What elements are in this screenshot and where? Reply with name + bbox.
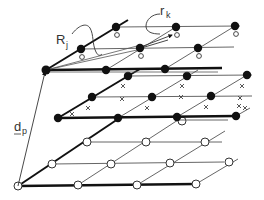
label-Rj: R j	[56, 32, 68, 50]
svg-text:r: r	[160, 3, 165, 18]
bottom-layer	[14, 117, 238, 190]
bottom-diag-3	[137, 131, 225, 185]
rk-leader-curve	[146, 14, 160, 34]
svg-text:j: j	[65, 40, 68, 50]
fan-line-1	[46, 50, 137, 70]
label-dp: d p	[14, 119, 27, 136]
svg-text:d: d	[14, 119, 21, 134]
middle-x-marks	[70, 84, 247, 116]
bottom-diag-2	[78, 120, 178, 185]
label-rk: r k	[160, 3, 171, 20]
top-row-mid-line	[81, 47, 234, 49]
lattice-diagram: R j r k d p	[0, 0, 264, 200]
bottom-open-circles	[14, 117, 233, 190]
top-layer	[42, 14, 241, 75]
bottom-row-front-line	[18, 184, 196, 186]
svg-text:p: p	[22, 126, 27, 136]
svg-text:k: k	[166, 10, 171, 20]
fan-line-2	[46, 46, 137, 70]
bottom-row-mid-line	[52, 162, 224, 164]
top-row-front-line	[46, 68, 222, 70]
bottom-diag-1	[18, 119, 118, 186]
top-filled-dots	[42, 22, 240, 75]
middle-layer	[54, 69, 252, 122]
svg-text:R: R	[56, 32, 65, 47]
middle-row-front-line	[58, 116, 236, 118]
middle-row-mid-line	[92, 96, 252, 97]
